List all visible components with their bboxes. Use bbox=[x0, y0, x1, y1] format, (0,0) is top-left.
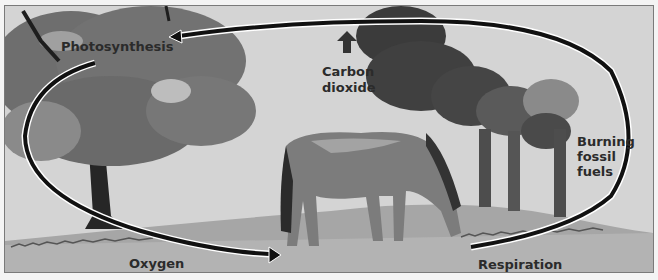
burning-fossil-fuels-label-line3: fuels bbox=[577, 164, 613, 179]
carbon-cycle-diagram: Photosynthesis Carbon dioxide Burning fo… bbox=[4, 5, 654, 273]
carbon-dioxide-label-line2: dioxide bbox=[322, 80, 376, 95]
burning-fossil-fuels-label-line1: Burning bbox=[577, 134, 635, 149]
carbon-dioxide-label-line1: Carbon bbox=[322, 64, 374, 79]
photosynthesis-label: Photosynthesis bbox=[61, 39, 174, 54]
oxygen-label: Oxygen bbox=[129, 256, 184, 271]
respiration-label: Respiration bbox=[478, 257, 562, 272]
burning-fossil-fuels-label-line2: fossil bbox=[577, 149, 616, 164]
